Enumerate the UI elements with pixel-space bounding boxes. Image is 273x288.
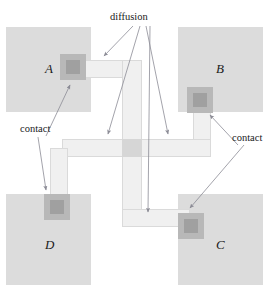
block-label-b: B bbox=[216, 62, 224, 75]
contact-b-inner bbox=[193, 93, 207, 107]
diffusion-node-center-cross bbox=[122, 139, 142, 157]
leader-diffusion-to-bottom-bar bbox=[148, 26, 150, 212]
annotation-diffusion: diffusion bbox=[110, 12, 148, 23]
contact-a-inner bbox=[66, 60, 80, 74]
block-label-c: C bbox=[216, 238, 225, 251]
annotation-contact-left: contact bbox=[20, 124, 50, 135]
leader-diffusion-to-a-bar bbox=[104, 26, 133, 56]
leader-diffusion-to-center-right bbox=[146, 26, 168, 134]
contact-d-inner bbox=[50, 200, 64, 214]
block-label-d: D bbox=[45, 238, 54, 251]
layout-figure: A B D C diffusion contact contact bbox=[0, 0, 273, 288]
annotation-contact-right: contact bbox=[232, 133, 262, 144]
contact-c-inner bbox=[184, 219, 198, 233]
block-label-a: A bbox=[45, 62, 53, 75]
leader-contact-left-to-d bbox=[38, 137, 46, 190]
